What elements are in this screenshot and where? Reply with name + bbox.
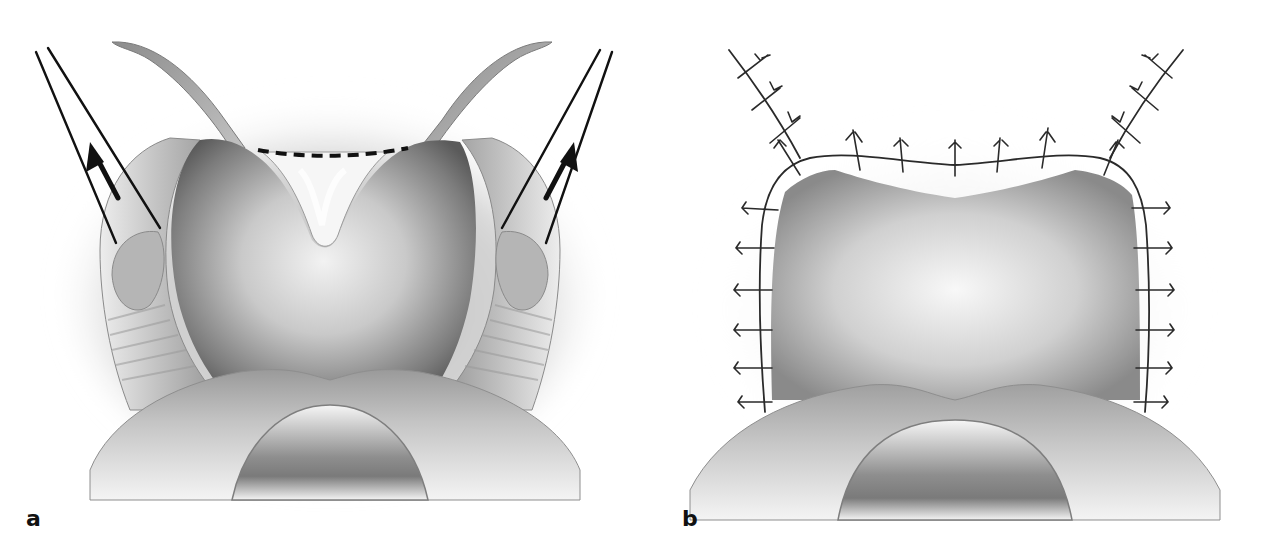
- panel-label-a: a: [26, 508, 41, 530]
- right-upper-flap: [420, 42, 552, 150]
- panel-label-b: b: [682, 508, 698, 530]
- panel-b-illustration: [660, 0, 1268, 558]
- closed-cavity: [771, 170, 1140, 400]
- panel-a-illustration: [0, 0, 640, 558]
- panel-a: a: [0, 0, 640, 558]
- left-upper-flap: [112, 42, 245, 150]
- panel-b: b: [660, 0, 1268, 558]
- right-arrow-icon: [546, 142, 578, 198]
- left-arrow-icon: [86, 142, 118, 198]
